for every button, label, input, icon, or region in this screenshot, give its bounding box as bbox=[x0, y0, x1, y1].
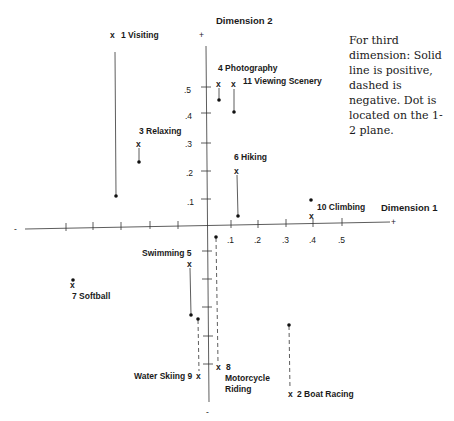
svg-text:.5: .5 bbox=[184, 85, 191, 95]
label-viewing-scenery: 11 Viewing Scenery bbox=[243, 76, 322, 86]
dot-viewing-scenery bbox=[232, 110, 236, 114]
dot-visiting bbox=[114, 194, 118, 198]
line-hiking bbox=[237, 175, 238, 216]
x-axis-minus: - bbox=[14, 224, 17, 234]
svg-text:.4: .4 bbox=[185, 111, 192, 121]
svg-text:.3: .3 bbox=[282, 235, 289, 245]
marker-visiting: x bbox=[110, 30, 115, 40]
axes bbox=[25, 46, 390, 402]
svg-text:.4: .4 bbox=[309, 235, 316, 245]
x-axis-plus: + bbox=[391, 217, 396, 227]
dot-swimming bbox=[189, 313, 193, 317]
svg-text:.1: .1 bbox=[187, 197, 194, 207]
marker-viewing-scenery: x bbox=[231, 79, 236, 89]
label-water-skiing: Water Skiing 9 bbox=[134, 371, 193, 381]
label-swimming: Swimming 5 bbox=[142, 248, 192, 258]
marker-water-skiing: x bbox=[196, 371, 201, 381]
dimension-2-title: Dimension 2 bbox=[216, 15, 273, 26]
line-boat-racing bbox=[289, 326, 290, 389]
marker-climbing: x bbox=[309, 211, 314, 221]
label-visiting: 1 Visiting bbox=[121, 30, 159, 40]
marker-motorcycle: x bbox=[216, 362, 221, 372]
label-hiking: 6 Hiking bbox=[234, 152, 267, 162]
label-motorcycle-3: Riding bbox=[225, 384, 251, 394]
label-photography: 4 Photography bbox=[218, 63, 278, 73]
line-motorcycle bbox=[216, 238, 218, 362]
label-softball: 7 Softball bbox=[72, 291, 110, 301]
third-dimension-note: For third dimension: Solid line is posit… bbox=[349, 33, 449, 138]
label-boat-racing: 2 Boat Racing bbox=[297, 389, 354, 399]
label-motorcycle-2: Motorcycle bbox=[225, 373, 270, 383]
svg-text:.3: .3 bbox=[185, 139, 192, 149]
marker-relaxing: x bbox=[136, 139, 141, 149]
svg-text:.1: .1 bbox=[227, 235, 234, 245]
label-climbing: 10 Climbing bbox=[317, 202, 365, 212]
y-axis-plus: + bbox=[199, 30, 204, 40]
y-axis-minus: - bbox=[206, 407, 209, 417]
dot-photography bbox=[217, 98, 221, 102]
line-visiting bbox=[115, 52, 116, 196]
line-swimming bbox=[190, 268, 191, 315]
svg-text:.2: .2 bbox=[186, 168, 193, 178]
y-tick-labels: .5 .4 .3 .2 .1 bbox=[184, 85, 194, 207]
marker-swimming: x bbox=[187, 259, 192, 269]
line-water-skiing bbox=[198, 320, 199, 371]
label-motorcycle-1: 8 bbox=[226, 362, 231, 372]
dot-water-skiing bbox=[196, 317, 200, 321]
dimension-1-title: Dimension 1 bbox=[381, 202, 438, 213]
dimension-3-lines bbox=[115, 52, 290, 389]
dot-climbing bbox=[309, 198, 313, 202]
svg-text:.5: .5 bbox=[338, 235, 345, 245]
marker-softball: x bbox=[70, 280, 75, 290]
svg-text:.2: .2 bbox=[254, 235, 261, 245]
dot-motorcycle bbox=[214, 235, 218, 239]
y-axis-line bbox=[206, 46, 209, 402]
marker-photography: x bbox=[216, 79, 221, 89]
marker-hiking: x bbox=[234, 166, 239, 176]
x-tick-labels: .1 .2 .3 .4 .5 bbox=[227, 235, 345, 245]
dot-relaxing bbox=[137, 160, 141, 164]
marker-boat-racing: x bbox=[288, 389, 293, 399]
dot-boat-racing bbox=[287, 323, 291, 327]
label-relaxing: 3 Relaxing bbox=[139, 126, 182, 136]
dot-hiking bbox=[236, 214, 240, 218]
